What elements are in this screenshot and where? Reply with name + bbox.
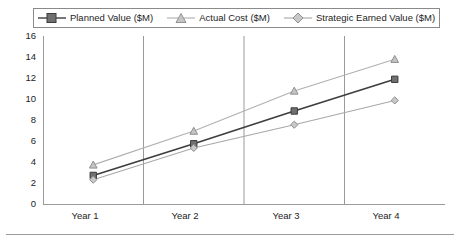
bottom-divider	[6, 234, 454, 235]
y-axis-tick-14: 14	[6, 52, 36, 62]
chart-legend: Planned Value ($M) Actual Cost ($M) Stra…	[33, 8, 440, 28]
data-point-actual-cost-m-year-1[interactable]	[89, 161, 97, 168]
data-point-actual-cost-m-year-2[interactable]	[190, 127, 198, 134]
legend-label-planned-value: Planned Value ($M)	[70, 13, 153, 23]
y-axis-tick-2: 2	[6, 178, 36, 188]
y-axis-tick-4: 4	[6, 157, 36, 167]
x-axis-tick-year-1: Year 1	[35, 210, 135, 221]
legend-label-actual-cost: Actual Cost ($M)	[199, 13, 270, 23]
legend-item-actual-cost[interactable]: Actual Cost ($M)	[167, 12, 270, 24]
square-marker-icon	[38, 12, 66, 24]
x-axis-tick-year-2: Year 2	[135, 210, 235, 221]
x-axis-tick-year-4: Year 4	[336, 210, 436, 221]
y-axis-tick-10: 10	[6, 94, 36, 104]
legend-item-strategic-earned-value[interactable]: Strategic Earned Value ($M)	[284, 12, 435, 24]
category-gridlines	[144, 36, 345, 205]
y-axis-tick-12: 12	[6, 73, 36, 83]
y-axis-tick-0: 0	[6, 199, 36, 209]
data-point-strategic-earned-value-m-year-4[interactable]	[391, 97, 398, 104]
x-axis-tick-year-3: Year 3	[236, 210, 336, 221]
y-axis-tick-16: 16	[6, 31, 36, 41]
data-point-actual-cost-m-year-4[interactable]	[391, 55, 399, 62]
plot-canvas	[43, 36, 445, 205]
triangle-marker-icon	[167, 12, 195, 24]
data-point-strategic-earned-value-m-year-3[interactable]	[291, 121, 298, 128]
legend-item-planned-value[interactable]: Planned Value ($M)	[38, 12, 153, 24]
y-axis-tick-6: 6	[6, 136, 36, 146]
y-axis-tick-8: 8	[6, 115, 36, 125]
chart-container: Planned Value ($M) Actual Cost ($M) Stra…	[0, 0, 460, 243]
data-point-planned-value-m-year-4[interactable]	[392, 76, 398, 82]
legend-label-strategic-earned-value: Strategic Earned Value ($M)	[316, 13, 435, 23]
diamond-marker-icon	[284, 12, 312, 24]
data-point-planned-value-m-year-3[interactable]	[291, 108, 297, 114]
